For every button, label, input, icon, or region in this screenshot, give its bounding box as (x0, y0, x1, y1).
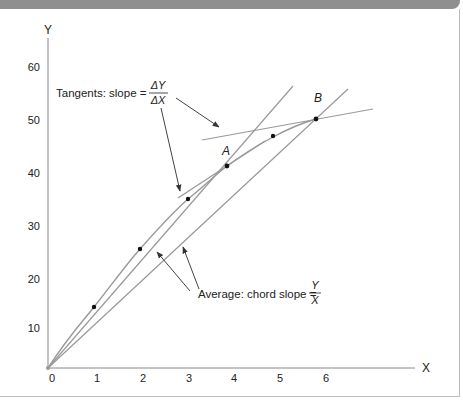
chord-arrow-a (157, 252, 190, 291)
data-point (92, 305, 96, 309)
data-point (138, 247, 142, 251)
tangent-denominator: ΔX (150, 94, 166, 106)
point-a-label: A (221, 144, 230, 158)
x-tick-labels: 0 1 2 3 4 5 6 (49, 372, 329, 384)
x-axis-label: X (422, 361, 430, 375)
y-tick: 10 (28, 322, 40, 334)
tangent-arrow-b (176, 98, 219, 127)
point-b-label: B (314, 91, 322, 105)
y-tick-labels: 10 20 30 40 50 60 (28, 61, 40, 334)
y-tick: 40 (28, 167, 40, 179)
chord-arrow-b (183, 247, 199, 289)
tangent-annotation: Tangents: slope = ΔY ΔX (56, 79, 219, 191)
axes: Y X (44, 23, 430, 375)
slope-diagram: Y X 10 20 30 40 50 60 0 1 2 3 4 5 6 A B (0, 0, 463, 412)
chord-annotation-text: Average: chord slope = (198, 288, 317, 300)
tangent-arrow-a (161, 108, 180, 191)
data-point (186, 197, 190, 201)
y-tick: 50 (28, 114, 40, 126)
data-point (271, 134, 275, 138)
tangent-line-b (202, 109, 373, 140)
x-tick: 1 (94, 372, 100, 384)
y-axis-label: Y (44, 23, 52, 37)
x-tick: 4 (231, 372, 237, 384)
chord-annotation: Average: chord slope = Y X (157, 247, 321, 306)
x-tick: 0 (49, 372, 55, 384)
x-tick: 5 (277, 372, 283, 384)
x-tick: 3 (186, 372, 192, 384)
chord-line-b (48, 89, 348, 368)
tangent-annotation-text: Tangents: slope = (56, 87, 147, 99)
chord-numerator: Y (311, 279, 319, 291)
point-a (225, 164, 230, 169)
y-tick: 30 (28, 220, 40, 232)
y-tick: 60 (28, 61, 40, 73)
y-tick: 20 (28, 273, 40, 285)
point-b (314, 117, 319, 122)
tangent-numerator: ΔY (150, 79, 166, 91)
chord-line-a (48, 86, 293, 368)
x-tick: 6 (323, 372, 329, 384)
origin-point (46, 366, 50, 370)
chord-denominator: X (310, 294, 319, 306)
x-tick: 2 (140, 372, 146, 384)
